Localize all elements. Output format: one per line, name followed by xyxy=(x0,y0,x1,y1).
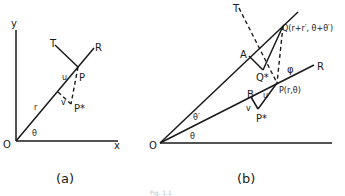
v-label: v xyxy=(61,98,66,107)
panel-b: T Q(r+r′, θ+θ′) A Q* φ R P(r,θ) B u v P*… xyxy=(149,3,333,186)
point-P-label: P xyxy=(79,72,85,83)
line-PT xyxy=(55,45,78,67)
point-R-label: R xyxy=(317,61,324,72)
point-A-label: A xyxy=(240,49,247,60)
panel-a: y x O T R P P* u v r θ (a) xyxy=(3,18,120,186)
point-P-label: P(r,θ) xyxy=(279,86,301,95)
ray-OR xyxy=(160,65,314,143)
point-Qstar-label: Q* xyxy=(256,72,269,83)
v-label: v xyxy=(246,104,251,113)
point-T-label: T xyxy=(232,3,240,14)
panel-a-caption: (a) xyxy=(56,171,74,186)
x-axis-label: x xyxy=(114,140,120,151)
r-label: r xyxy=(34,103,38,112)
origin-label: O xyxy=(149,140,157,151)
u-label: u xyxy=(263,91,268,100)
u-label: u xyxy=(62,73,67,82)
figure-caption: Fig. 1.1 xyxy=(150,189,172,196)
theta-label: θ xyxy=(190,132,195,141)
theta-label: θ xyxy=(32,129,37,138)
diagram-canvas: y x O T R P P* u v r θ (a) T Q(r+r′, θ+θ… xyxy=(0,0,345,196)
theta-prime-label: θ′ xyxy=(193,113,200,122)
origin-label: O xyxy=(3,139,11,150)
point-R-label: R xyxy=(95,42,102,53)
segment-AQstar xyxy=(249,56,263,70)
point-B-label: B xyxy=(247,89,254,100)
point-Pstar-label: P* xyxy=(256,113,267,124)
point-Q-label: Q(r+r′, θ+θ′) xyxy=(282,24,333,33)
phi-label: φ xyxy=(287,64,294,75)
y-axis-label: y xyxy=(11,18,17,29)
ray-OR xyxy=(16,48,94,141)
panel-b-caption: (b) xyxy=(237,171,255,186)
point-Pstar-label: P* xyxy=(74,103,85,114)
dashed-PPstar xyxy=(71,67,78,104)
dashed-PQ xyxy=(277,26,283,83)
point-T-label: T xyxy=(49,38,57,49)
